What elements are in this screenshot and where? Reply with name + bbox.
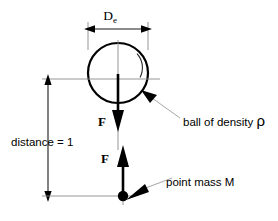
force-vector-up-group (117, 145, 129, 195)
ball-annotation-text: ball of density (183, 116, 257, 128)
distance-arrowhead-bottom-icon (44, 191, 51, 202)
ball-annotation-arrowhead-icon (141, 90, 157, 103)
point-mass-annotation-label: point mass M (166, 176, 234, 188)
force-lower-label: F (101, 151, 109, 166)
diameter-arrowhead-right-icon (141, 25, 152, 33)
density-rho-symbol: ρ (257, 112, 266, 129)
physics-force-diagram: De distance = 1 F F ball of density ρ po… (0, 0, 278, 221)
force-upper-label: F (98, 114, 106, 129)
force-down-arrowhead-icon (112, 110, 124, 132)
ball-annotation-label: ball of density ρ (183, 112, 265, 129)
ball-annotation-leader-line (152, 98, 180, 118)
diagram-canvas: De distance = 1 F F ball of density ρ po… (0, 0, 278, 221)
ball-annotation-leader-group (141, 90, 180, 118)
distance-label: distance = 1 (11, 136, 73, 148)
distance-arrowhead-top-icon (44, 74, 51, 85)
ball-radius-arc (137, 54, 142, 78)
diameter-subscript: e (113, 15, 117, 25)
point-mass-annotation-arrowhead-icon (126, 184, 149, 200)
diameter-symbol: D (103, 8, 113, 23)
diameter-label: De (103, 8, 117, 25)
diameter-arrowhead-left-icon (84, 25, 95, 33)
force-up-arrowhead-icon (117, 145, 129, 167)
